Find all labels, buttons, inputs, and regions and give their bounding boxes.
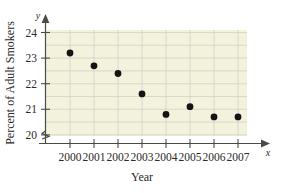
data-point (235, 114, 242, 121)
x-tick-label: 2005 (179, 151, 202, 163)
x-tick-label: 2007 (227, 151, 250, 163)
scatter-plot-figure: 24 23 22 21 20 2000 2001 2002 2003 2004 … (0, 0, 281, 193)
y-tick-label: 21 (26, 103, 38, 115)
y-tick-label: 23 (26, 52, 38, 64)
y-axis-title: Percent of Adult Smokers (3, 21, 17, 145)
x-tick-labels: 2000 2001 2002 2003 2004 2005 2006 2007 (59, 151, 250, 163)
x-tick-label: 2001 (83, 151, 106, 163)
plot-area-background (46, 30, 247, 136)
x-tick-label: 2004 (155, 151, 178, 163)
y-tick-label: 20 (26, 129, 38, 141)
x-axis (39, 140, 270, 148)
data-point (211, 114, 218, 121)
data-point (187, 103, 194, 110)
y-axis-arrowhead (42, 14, 50, 23)
data-point (67, 50, 74, 57)
data-point (115, 70, 122, 77)
x-axis-symbol: x (265, 147, 271, 158)
y-tick-label: 22 (26, 78, 38, 90)
y-tick-labels: 24 23 22 21 20 (26, 27, 38, 141)
y-tick-label: 24 (26, 27, 38, 39)
chart-svg: 24 23 22 21 20 2000 2001 2002 2003 2004 … (0, 0, 281, 193)
x-tick-label: 2002 (107, 151, 130, 163)
data-point (139, 91, 146, 98)
data-point (91, 62, 98, 69)
x-tick-label: 2006 (203, 151, 226, 163)
y-axis-symbol: y (35, 10, 41, 21)
x-tick-label: 2000 (59, 151, 82, 163)
data-point (163, 111, 170, 118)
x-tick-label: 2003 (131, 151, 154, 163)
x-axis-title: Year (131, 170, 153, 184)
